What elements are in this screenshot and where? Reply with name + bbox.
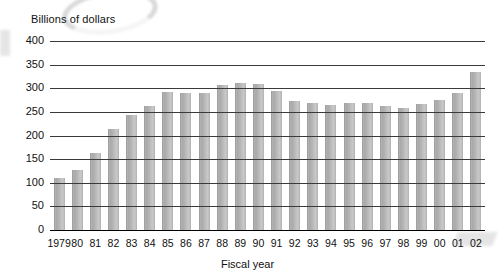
y-axis-tick-label: 350 xyxy=(4,57,44,69)
x-axis-tick-label: 82 xyxy=(108,237,120,249)
bar xyxy=(235,83,246,230)
bar xyxy=(217,85,228,230)
y-axis-tick-label: 200 xyxy=(4,128,44,140)
bar xyxy=(90,153,101,230)
x-axis-tick-label: 85 xyxy=(162,237,174,249)
plot-area: 1979808182838485868788899091929394959697… xyxy=(50,41,485,230)
x-axis-tick-label: 99 xyxy=(416,237,428,249)
bar xyxy=(180,93,191,230)
x-axis-tick-label: 94 xyxy=(325,237,337,249)
x-axis-tick-label: 86 xyxy=(180,237,192,249)
x-axis-tick-label: 00 xyxy=(434,237,446,249)
bar xyxy=(72,170,83,230)
y-axis-tick-label: 250 xyxy=(4,104,44,116)
gridline xyxy=(50,41,485,42)
bar xyxy=(452,93,463,230)
x-axis-tick-label: 91 xyxy=(271,237,283,249)
gridline xyxy=(50,159,485,160)
y-axis-tick-label: 150 xyxy=(4,152,44,164)
x-axis-tick-label: 1979 xyxy=(47,237,70,249)
y-axis-tick-label: 400 xyxy=(4,34,44,46)
y-axis-tick-label: 100 xyxy=(4,175,44,187)
x-axis-tick-label: 92 xyxy=(289,237,301,249)
bar xyxy=(380,106,391,230)
gridline xyxy=(50,65,485,66)
gridline xyxy=(50,112,485,113)
bar xyxy=(362,103,373,230)
x-axis-tick-label: 90 xyxy=(253,237,265,249)
x-axis-tick-label: 81 xyxy=(89,237,101,249)
bar xyxy=(108,129,119,230)
x-axis-tick-label: 97 xyxy=(379,237,391,249)
gridline xyxy=(50,206,485,207)
x-axis-tick-label: 01 xyxy=(452,237,464,249)
bar xyxy=(144,106,155,230)
y-axis-tick-label: 50 xyxy=(4,199,44,211)
bar xyxy=(307,103,318,230)
y-axis-tick-label: 0 xyxy=(4,223,44,235)
bar xyxy=(398,108,409,230)
x-axis-baseline xyxy=(50,230,485,231)
bar xyxy=(289,101,300,230)
x-axis-tick-label: 96 xyxy=(361,237,373,249)
bar xyxy=(416,104,427,230)
bar xyxy=(434,100,445,230)
x-axis-tick-label: 02 xyxy=(470,237,482,249)
gridline xyxy=(50,88,485,89)
gridline xyxy=(50,183,485,184)
x-axis-tick-label: 98 xyxy=(398,237,410,249)
bar xyxy=(199,93,210,230)
x-axis-tick-label: 89 xyxy=(234,237,246,249)
x-axis-tick-label: 95 xyxy=(343,237,355,249)
bar xyxy=(126,115,137,230)
x-axis-tick-label: 88 xyxy=(216,237,228,249)
bar xyxy=(253,84,264,230)
y-axis-tick-label: 300 xyxy=(4,81,44,93)
x-axis-tick-label: 83 xyxy=(126,237,138,249)
y-axis-title: Billions of dollars xyxy=(31,13,115,25)
bar xyxy=(325,105,336,230)
x-axis-title: Fiscal year xyxy=(0,258,495,270)
bar xyxy=(54,178,65,230)
x-axis-tick-label: 84 xyxy=(144,237,156,249)
x-axis-tick-label: 80 xyxy=(71,237,83,249)
x-axis-tick-label: 87 xyxy=(198,237,210,249)
bar xyxy=(344,103,355,230)
gridline xyxy=(50,136,485,137)
x-axis-tick-label: 93 xyxy=(307,237,319,249)
